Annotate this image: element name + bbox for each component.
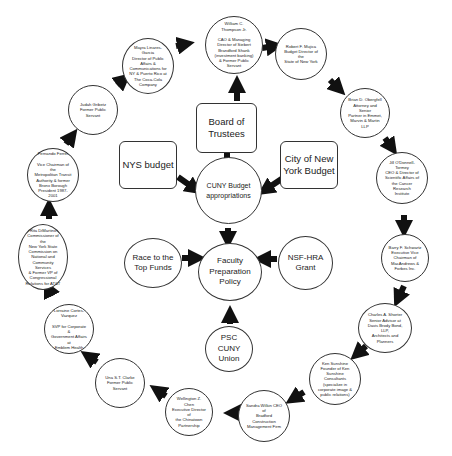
ring-text-line: Director of Siebert [215,42,254,47]
ring-node-shorter: Charles A. ShorterSenior Advisor atDavis… [358,303,412,353]
ring-text-line: Relations for AT&T [25,281,61,286]
ring-node-chen: Wellington Z. ChenExecutive Director oft… [165,388,213,436]
ring-node-gribetz: Judah GribetzFormer Public Servant [68,85,118,135]
nys-budget-box: NYS budget [119,141,177,189]
ring-text: Lorraine Cortes-Vazquez SVP for Corporat… [45,308,93,350]
ring-text-line: Company [129,82,167,87]
ring-text-line: Executive Director of [172,407,206,418]
ring-text-line: Fernando Ferrer [34,151,72,156]
ring-text-line: Community Services [25,260,61,271]
ring-text: Charles A. ShorterSenior Advisor atDavis… [359,312,411,344]
ring-node-sunshine: Ken SunshineFounder of KenSunshine Consu… [309,353,361,405]
ring-text-line: Charles A. Shorter [365,312,405,317]
ring-node-schwartz: Barry F. SchwartzExecutive ViceChairman … [381,234,429,282]
ring-text: Sandra Wilkin CEO ofBradford Constructio… [239,403,289,429]
ring-node-cortes-vazquez: Lorraine Cortes-Vazquez SVP for Corporat… [44,304,94,354]
city-budget-label: City of New York Budget [281,153,337,177]
ring-text-line: Forbes Inc. [389,266,422,271]
ring-text-line: Metropolitan Transit [34,172,72,177]
ring-text: Brian D. ObergfellAttorney and SeniorPar… [341,97,389,129]
ring-text-line: Attorney and Senior [347,103,383,114]
ring-text-line: Scientific Affairs of [383,175,421,180]
ring-text-line: President 1987-2001 [34,188,72,199]
ring-text-line: Senior Advisor at [365,318,405,323]
cuny-budget-label: CUNY Budget appropriations [196,181,261,199]
ring-text-line: Sunshine Consultants [316,371,354,382]
ring-text-line: Budget Director of the [282,49,320,60]
ring-text-line: SVP for Corporate & [51,324,87,335]
ring-text-line: Robert F. Mujica [282,44,320,49]
ring-text: William C.Thompson Jr. CAO & ManagingDir… [209,21,260,68]
ring-text-line: Servant [215,63,254,68]
ring-text-line: Government Affairs at [51,334,87,345]
cuny-budget-node: CUNY Budget appropriations [195,157,262,224]
diagram-canvas: Board of Trustees NYS budget City of New… [0,0,452,456]
ring-text: Wellington Z. ChenExecutive Director oft… [166,396,212,428]
ring-text: Jill O'Donnell-TormeyCEO & Director ofSc… [377,160,427,197]
ring-text-line: Jill O'Donnell-Tormey [383,160,421,171]
nsf-hra-label: NSF-HRA Grant [279,253,332,274]
ring-text-line: Vice Chairman of the [34,162,72,173]
ring-node-dimartino: Rita DiMartinoCommissioner of theNew Yor… [18,224,68,290]
ring-text: Judah GribetzFormer Public Servant [69,102,117,118]
ring-text-line: the Cancer Research [383,181,421,192]
faculty-policy-node: Faculty Preparation Policy [198,243,262,301]
ring-text-line: Director of Public [129,56,167,61]
race-to-top-label: Race to the Top Funds [125,253,181,274]
nys-budget-label: NYS budget [122,159,173,171]
ring-text-line: Mayra Linares-Garcia [129,45,167,56]
ring-text: Barry F. SchwartzExecutive ViceChairman … [383,245,428,271]
ring-text-line: Former Public Servant [75,107,111,118]
ring-text: Ken SunshineFounder of KenSunshine Consu… [310,361,360,398]
ring-text-line: Marvin & Martin LLP [347,118,383,129]
ring-text: Mayra Linares-GarciaDirector of PublicAf… [123,45,173,87]
ring-text-line: Brian D. Obergfell [347,97,383,102]
ring-text: Rita DiMartinoCommissioner of theNew Yor… [19,228,67,286]
ring-text-line: NY & Puerto Rico at [129,71,167,76]
ring-node-wilkin: Sandra Wilkin CEO ofBradford Constructio… [238,390,290,442]
psc-cuny-label: PSC CUNY Union [206,333,252,364]
ring-text-line: the Chinatown [172,417,206,422]
ring-node-mujica: Robert F. MujicaBudget Director of theSt… [275,28,327,80]
faculty-policy-label: Faculty Preparation Policy [199,256,261,287]
ring-node-ferrer: Fernando Ferrer Vice Chairman of theMetr… [27,148,79,202]
city-budget-box: City of New York Budget [280,141,338,189]
ring-text-line: public relations) [316,392,354,397]
ring-text-line: Former Public Servant [102,380,138,391]
ring-text-line: Sandra Wilkin CEO of [245,403,283,414]
ring-text-line: Institute [383,191,421,196]
ring-text-line: Congressional [25,275,61,280]
ring-text-line: Partnership [172,423,206,428]
ring-text-line: Management Firm [245,424,283,429]
ring-text-line: Planners [365,339,405,344]
ring-text-line: The Coca-Cola [129,77,167,82]
ring-text-line: Emblem Health [51,345,87,350]
ring-text-line: Wellington Z. Chen [172,396,206,407]
ring-text: Fernando Ferrer Vice Chairman of theMetr… [28,151,78,198]
race-to-top-node: Race to the Top Funds [124,238,182,288]
board-of-trustees-box: Board of Trustees [196,103,257,153]
ring-node-obergfell: Brian D. ObergfellAttorney and SeniorPar… [340,88,390,138]
ring-text: Robert F. MujicaBudget Director of theSt… [276,44,326,65]
ring-text-line: Bradford Construction [245,413,283,424]
psc-cuny-node: PSC CUNY Union [205,326,253,372]
ring-text-line: Commissioner of the [25,233,61,244]
ring-node-clarke: Una S.T. ClarkeFormer Public Servant [95,358,145,408]
ring-text-line: State of New York [282,59,320,64]
ring-text-line: Davis Brody Bond, LLP, [365,323,405,334]
ring-node-thompson: William C.Thompson Jr. CAO & ManagingDir… [205,16,263,74]
ring-node-linares-garcia: Mayra Linares-GarciaDirector of PublicAf… [122,38,174,94]
board-of-trustees-label: Board of Trustees [197,116,256,140]
ring-text: Una S.T. ClarkeFormer Public Servant [96,375,144,391]
nsf-hra-node: NSF-HRA Grant [278,236,333,290]
ring-node-odonnell-tormey: Jill O'Donnell-TormeyCEO & Director ofSc… [376,152,428,204]
